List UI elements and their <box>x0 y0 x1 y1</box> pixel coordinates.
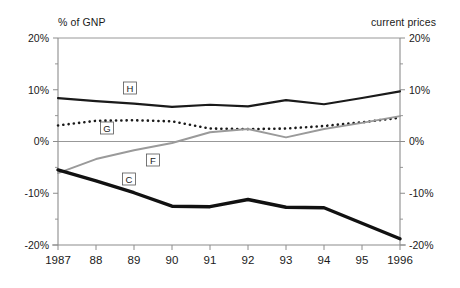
x-tick-label: 92 <box>242 254 255 266</box>
y-tick-label-left: 10% <box>28 84 49 96</box>
series-tag-label-h: H <box>127 83 134 94</box>
y-tick-label-left: -20% <box>24 239 49 251</box>
series-tag-label-c: C <box>126 174 133 185</box>
series-tag-label-g: G <box>103 123 110 134</box>
y-tick-label-right: 0% <box>409 135 424 147</box>
y-tick-label-right: -10% <box>409 187 434 199</box>
x-tick-label: 93 <box>280 254 293 266</box>
series-layer <box>58 91 400 238</box>
y-tick-label-right: -20% <box>409 239 434 251</box>
series-line-c <box>58 170 400 239</box>
x-tick-label: 88 <box>90 254 103 266</box>
x-tick-label: 90 <box>166 254 179 266</box>
x-tick-label: 95 <box>356 254 369 266</box>
y-tick-label-left: 20% <box>28 32 49 44</box>
y-tick-label-right: 20% <box>409 32 430 44</box>
x-tick-label: 1996 <box>387 254 413 266</box>
x-tick-label: 1987 <box>45 254 71 266</box>
series-line-h <box>58 91 400 107</box>
y-tick-label-right: 10% <box>409 84 430 96</box>
y-tick-label-left: -10% <box>24 187 49 199</box>
x-tick-label: 89 <box>128 254 141 266</box>
line-chart: HGFC 20%20%10%10%0%0%-10%-10%-20%-20%198… <box>0 0 460 288</box>
series-tag-label-f: F <box>150 155 156 166</box>
chart-page: % of GNP current prices HGFC 20%20%10%10… <box>0 0 460 288</box>
x-tick-label: 91 <box>204 254 217 266</box>
x-tick-label: 94 <box>318 254 331 266</box>
tick-label-layer: 20%20%10%10%0%0%-10%-10%-20%-20%19878889… <box>24 32 433 266</box>
y-tick-label-left: 0% <box>34 135 49 147</box>
series-tag-layer: HGFC <box>101 82 160 185</box>
